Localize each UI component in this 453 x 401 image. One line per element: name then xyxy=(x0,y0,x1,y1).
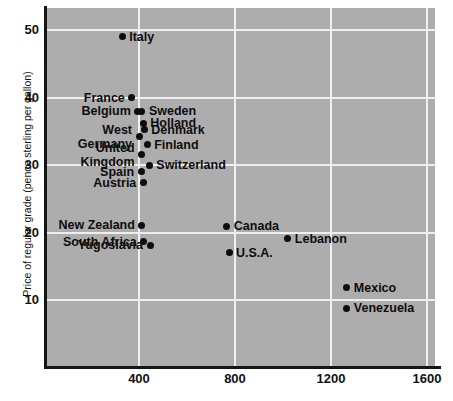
data-point xyxy=(128,94,135,101)
x-axis-tick-label: 1600 xyxy=(397,372,453,385)
data-point-label: Italy xyxy=(129,30,154,43)
data-point xyxy=(140,179,147,186)
y-axis-title: Price of regular grade (pence sterling p… xyxy=(21,49,33,319)
x-axis-tick-label: 800 xyxy=(205,372,265,385)
gridline-vertical xyxy=(138,8,140,367)
data-point xyxy=(146,162,153,169)
data-point-label: Yugoslavia xyxy=(78,239,143,252)
data-point xyxy=(138,222,145,229)
data-point-label: Austria xyxy=(93,176,136,189)
y-axis-tick-label: 40 xyxy=(0,91,39,104)
y-axis-tick-label: 10 xyxy=(0,293,39,306)
data-point xyxy=(141,126,148,133)
data-point-label: France xyxy=(84,91,125,104)
y-axis-line xyxy=(44,6,47,369)
data-point-label: United xyxy=(96,141,135,154)
data-point-label: West xyxy=(102,123,132,136)
data-point xyxy=(284,235,291,242)
y-axis-tick-label: 20 xyxy=(0,226,39,239)
data-point xyxy=(343,284,350,291)
data-point-label: New Zealand xyxy=(58,219,134,232)
data-point xyxy=(136,133,143,140)
data-point-label: Denmark xyxy=(151,123,205,136)
gridline-vertical xyxy=(426,8,428,367)
data-point xyxy=(138,108,145,115)
data-point-label: Venezuela xyxy=(354,302,414,315)
x-axis-tick-label: 1200 xyxy=(301,372,361,385)
plot-area: ItalyFranceBelgiumSwedenHollandWestGerma… xyxy=(46,8,435,367)
data-point xyxy=(343,305,350,312)
data-point xyxy=(138,168,145,175)
data-point-label: Mexico xyxy=(354,281,396,294)
x-axis-line xyxy=(44,366,441,369)
scatter-plot-figure: ItalyFranceBelgiumSwedenHollandWestGerma… xyxy=(0,0,453,401)
data-point xyxy=(144,141,151,148)
data-point xyxy=(119,33,126,40)
data-point-label: Canada xyxy=(234,220,279,233)
gridline-horizontal xyxy=(46,29,435,31)
data-point-label: Switzerland xyxy=(156,159,225,172)
data-point-label: Belgium xyxy=(81,105,130,118)
data-point-label: Finland xyxy=(154,138,198,151)
data-point xyxy=(226,249,233,256)
data-point xyxy=(223,223,230,230)
gridline-vertical xyxy=(330,8,332,367)
data-point-label: U.S.A. xyxy=(236,246,273,259)
y-axis-tick-label: 50 xyxy=(0,23,39,36)
x-axis-tick-label: 400 xyxy=(109,372,169,385)
y-axis-tick-label: 30 xyxy=(0,158,39,171)
gridline-vertical xyxy=(234,8,236,367)
data-point-label: Lebanon xyxy=(295,232,347,245)
data-point xyxy=(147,242,154,249)
data-point xyxy=(138,151,145,158)
